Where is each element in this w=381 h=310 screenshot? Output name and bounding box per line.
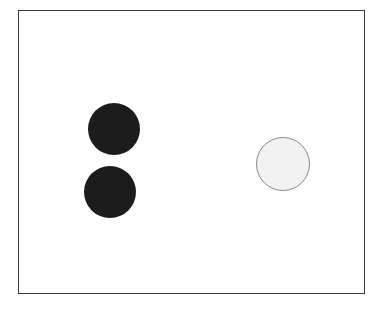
dark-circle-bottom [84,166,136,218]
diagram-frame [18,10,365,294]
dark-circle-top [88,103,140,155]
light-circle [256,137,310,191]
